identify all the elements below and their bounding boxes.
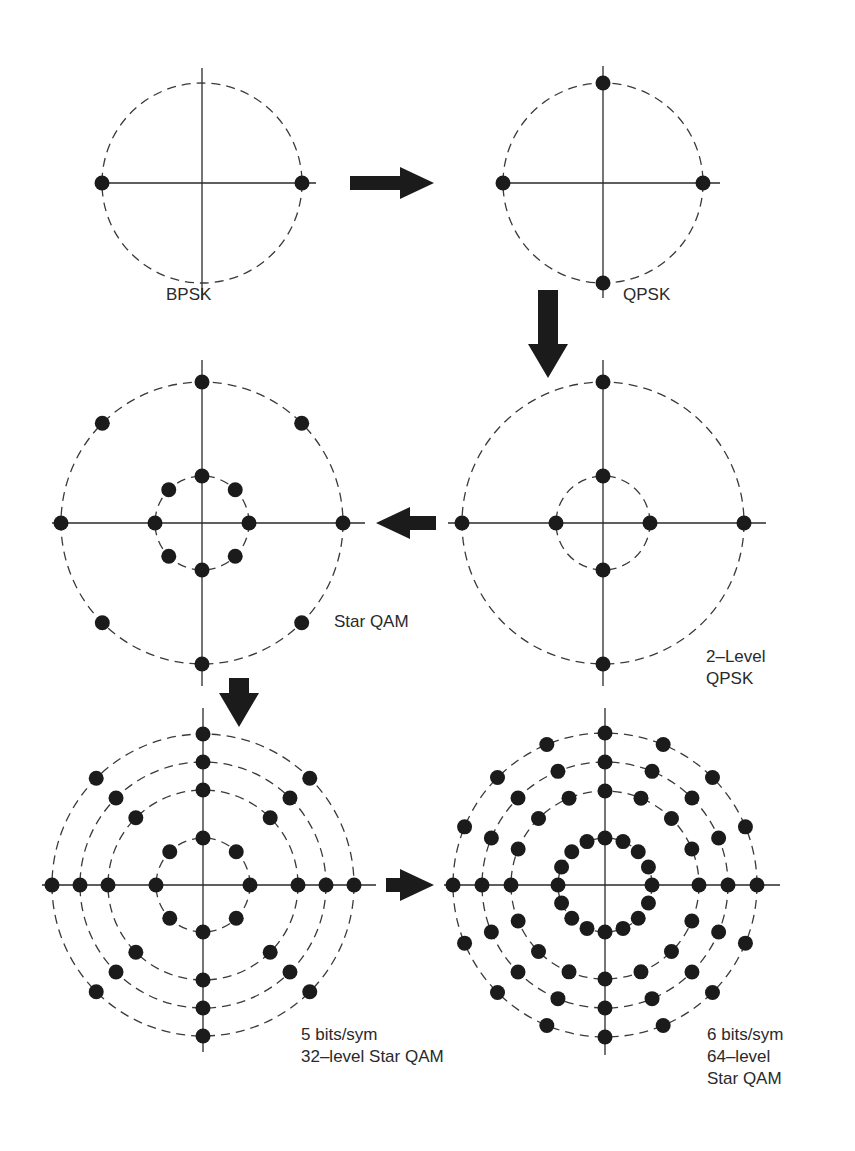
symbol-point: [539, 1018, 554, 1033]
symbol-point: [656, 737, 671, 752]
symbol-point: [598, 1001, 613, 1016]
symbol-point: [596, 657, 611, 672]
label-line: BPSK: [166, 285, 212, 304]
modulation-constellation-figure: BPSKQPSKStar QAM2–LevelQPSK5 bits/sym32–…: [0, 0, 855, 1151]
symbol-point: [692, 878, 707, 893]
symbol-point: [457, 936, 472, 951]
symbol-point: [196, 1001, 211, 1016]
symbol-point: [641, 895, 656, 910]
symbol-point: [243, 878, 258, 893]
symbol-point: [598, 831, 613, 846]
symbol-point: [291, 878, 306, 893]
arrow-left-icon: [376, 507, 436, 539]
label-line: 2–Level: [706, 647, 766, 666]
symbol-point: [148, 516, 163, 531]
symbol-point: [750, 878, 765, 893]
symbol-point: [550, 764, 565, 779]
symbol-point: [162, 911, 177, 926]
symbol-point: [738, 819, 753, 834]
constellation-bpsk: BPSK: [95, 68, 317, 304]
symbol-point: [161, 549, 176, 564]
symbol-point: [631, 911, 646, 926]
label-line: Star QAM: [334, 612, 409, 631]
symbol-point: [490, 985, 505, 1000]
symbol-point: [598, 925, 613, 940]
symbol-point: [162, 844, 177, 859]
symbol-point: [457, 819, 472, 834]
symbol-point: [347, 878, 362, 893]
symbol-point: [294, 416, 309, 431]
symbol-point: [511, 791, 526, 806]
label-line: 64–level: [707, 1047, 770, 1066]
symbol-point: [664, 944, 679, 959]
symbol-point: [229, 911, 244, 926]
symbol-point: [645, 764, 660, 779]
symbol-point: [684, 913, 699, 928]
symbol-point: [564, 911, 579, 926]
symbol-point: [684, 842, 699, 857]
symbol-point: [196, 831, 211, 846]
constellation-star-qam-32: 5 bits/sym32–level Star QAM: [42, 708, 444, 1066]
constellation-label: 2–LevelQPSK: [706, 647, 766, 688]
symbol-point: [196, 783, 211, 798]
symbol-point: [551, 878, 566, 893]
symbol-point: [598, 755, 613, 770]
symbol-point: [282, 964, 297, 979]
symbol-point: [596, 276, 611, 291]
symbol-point: [643, 516, 658, 531]
symbol-point: [95, 416, 110, 431]
symbol-point: [596, 375, 611, 390]
symbol-point: [89, 771, 104, 786]
symbol-point: [196, 973, 211, 988]
symbol-point: [95, 615, 110, 630]
symbol-point: [101, 878, 116, 893]
symbol-point: [633, 791, 648, 806]
constellation-label: BPSK: [166, 285, 212, 304]
label-line: Star QAM: [707, 1069, 782, 1088]
symbol-point: [109, 964, 124, 979]
symbol-point: [511, 913, 526, 928]
symbol-point: [596, 76, 611, 91]
symbol-point: [128, 810, 143, 825]
symbol-point: [511, 842, 526, 857]
symbol-point: [598, 1030, 613, 1045]
constellation-label: 6 bits/sym64–levelStar QAM: [707, 1025, 784, 1088]
symbol-point: [196, 1029, 211, 1044]
symbol-point: [711, 830, 726, 845]
constellation-diagrams: BPSKQPSKStar QAM2–LevelQPSK5 bits/sym32–…: [42, 66, 784, 1088]
symbol-point: [149, 878, 164, 893]
symbol-point: [562, 964, 577, 979]
arrow-down-icon: [528, 290, 568, 378]
symbol-point: [641, 860, 656, 875]
constellation-label: QPSK: [623, 285, 671, 304]
constellation-star-qam-64: 6 bits/sym64–levelStar QAM: [444, 708, 784, 1088]
label-line: 32–level Star QAM: [301, 1047, 444, 1066]
symbol-point: [554, 895, 569, 910]
label-line: QPSK: [706, 669, 754, 688]
symbol-point: [229, 844, 244, 859]
progression-arrows: [219, 167, 568, 901]
symbol-point: [196, 755, 211, 770]
symbol-point: [54, 516, 69, 531]
symbol-point: [596, 469, 611, 484]
symbol-point: [319, 878, 334, 893]
symbol-point: [455, 516, 470, 531]
constellation-two-level-qpsk: 2–LevelQPSK: [448, 360, 766, 688]
symbol-point: [45, 878, 60, 893]
symbol-point: [196, 925, 211, 940]
symbol-point: [633, 964, 648, 979]
symbol-point: [242, 516, 257, 531]
constellation-star-qam: Star QAM: [52, 360, 409, 686]
symbol-point: [195, 469, 210, 484]
symbol-point: [302, 771, 317, 786]
symbol-point: [549, 516, 564, 531]
arrow-right-icon: [386, 869, 434, 901]
symbol-point: [228, 482, 243, 497]
symbol-point: [484, 830, 499, 845]
symbol-point: [228, 549, 243, 564]
symbol-point: [737, 516, 752, 531]
label-line: 5 bits/sym: [301, 1025, 378, 1044]
symbol-point: [705, 770, 720, 785]
constellation-label: Star QAM: [334, 612, 409, 631]
symbol-point: [615, 834, 630, 849]
